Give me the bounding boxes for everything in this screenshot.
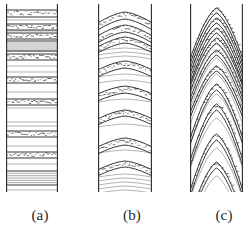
bedding-hairline <box>98 99 152 102</box>
bedding-hairline <box>98 186 152 189</box>
caption-panel-b: (b) <box>104 205 160 225</box>
bedding-hairline <box>190 148 243 192</box>
bed-boundary-bottom <box>98 167 152 176</box>
bed-boundary-top <box>98 138 152 147</box>
bed-boundary-top <box>98 25 152 36</box>
bed-boundary-bottom <box>98 116 152 125</box>
core-column-b-drawing <box>98 4 152 192</box>
core-column-a-drawing <box>6 4 58 192</box>
bed-boundary-top <box>98 161 152 170</box>
bed-boundary-top <box>98 12 152 23</box>
core-column-panel-c <box>190 4 243 192</box>
core-column-c-drawing <box>190 4 243 192</box>
figure-three-core-columns: (a) (b) (c) <box>0 0 250 235</box>
core-column-panel-a <box>6 4 58 192</box>
bedding-hairline <box>98 56 152 59</box>
caption-row: (a) (b) (c) <box>0 205 250 233</box>
bed-boundary-bottom <box>98 93 152 101</box>
bed-boundary-top <box>98 110 152 119</box>
bed-boundary-top <box>190 104 243 161</box>
caption-panel-c: (c) <box>196 205 250 225</box>
bedding-hairline <box>98 190 152 192</box>
bed-boundary-bottom <box>190 168 243 192</box>
bedding-hairline <box>98 80 152 83</box>
bedding-hairline <box>98 74 152 77</box>
bedding-hairline <box>98 182 152 185</box>
bed-boundary-top <box>190 84 243 139</box>
bedding-hairline <box>98 52 152 55</box>
bedding-hairline <box>98 174 152 177</box>
caption-panel-a: (a) <box>12 205 68 225</box>
bedding-hairline <box>98 178 152 181</box>
bed-boundary-bottom <box>98 145 152 154</box>
core-column-panel-b <box>98 4 152 192</box>
bedding-hairline <box>98 124 152 127</box>
bed-boundary-bottom <box>98 19 152 30</box>
bed-boundary-bottom <box>98 68 152 77</box>
